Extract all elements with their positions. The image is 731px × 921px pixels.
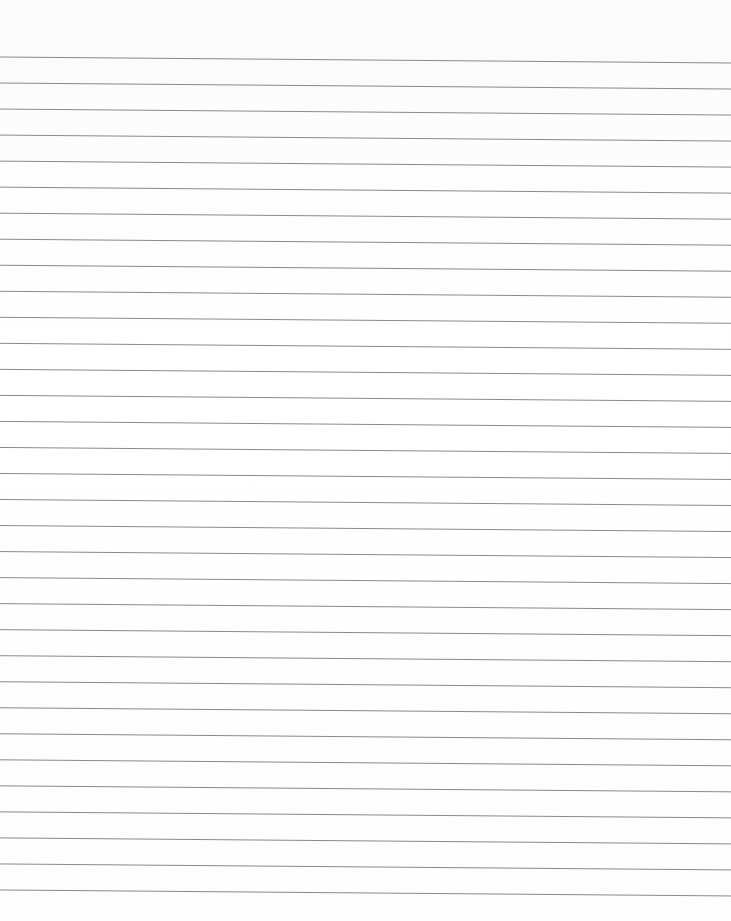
ruled-line [0, 135, 731, 141]
ruled-line [0, 812, 731, 818]
lined-paper-sheet [0, 0, 731, 921]
ruled-line [0, 864, 731, 870]
ruled-line [0, 526, 731, 532]
ruled-line [0, 500, 731, 506]
ruled-line [0, 317, 731, 323]
ruled-line [0, 187, 731, 193]
ruled-line [0, 265, 731, 271]
ruled-line [0, 161, 731, 167]
ruled-line [0, 734, 731, 740]
ruled-line [0, 682, 731, 688]
ruled-line [0, 578, 731, 584]
ruled-line [0, 447, 731, 453]
ruled-line [0, 656, 731, 662]
ruled-line [0, 630, 731, 636]
ruled-lines [0, 0, 731, 921]
ruled-line [0, 343, 731, 349]
ruled-line [0, 109, 731, 115]
ruled-line [0, 421, 731, 427]
ruled-line [0, 369, 731, 375]
ruled-line [0, 57, 731, 63]
ruled-line [0, 239, 731, 245]
ruled-line [0, 395, 731, 401]
ruled-line [0, 291, 731, 297]
ruled-line [0, 786, 731, 792]
ruled-line [0, 838, 731, 844]
ruled-line [0, 604, 731, 610]
ruled-line [0, 760, 731, 766]
ruled-line [0, 473, 731, 479]
ruled-line [0, 83, 731, 89]
ruled-line [0, 552, 731, 558]
ruled-line [0, 213, 731, 219]
ruled-line [0, 708, 731, 714]
ruled-line [0, 890, 731, 896]
